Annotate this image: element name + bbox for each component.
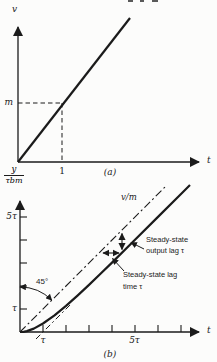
figure-strokes	[0, 0, 217, 362]
output-lag-annotation-line2: output lag τ	[146, 245, 184, 256]
lag-time-annotation-line2: time τ	[123, 281, 142, 292]
panel-b-input-line-label: v/m	[121, 193, 137, 202]
panel-b-y-axis-label-numerator: y	[3, 164, 25, 175]
panel-a-tick-1-label: 1	[57, 166, 67, 176]
panel-b-xtick-5tau-label: 5τ	[127, 335, 142, 345]
panel-b-angle-arc	[20, 287, 52, 300]
panel-b-y-axis-label-denominator: τbm	[3, 176, 25, 186]
panel-b-ytick-tau-label: τ	[6, 303, 17, 313]
textbook-figure: v t m 1 (a) y τbm 5τ τ τ 5τ t v/m 45° St…	[0, 0, 217, 362]
panel-b-x-axis-label: t	[207, 325, 211, 335]
panel-b-output-lag-pointer	[131, 243, 144, 250]
panel-b-angle-label: 45°	[36, 276, 48, 287]
panel-b-y-axis-label: y τbm	[3, 164, 25, 186]
panel-b-input-line-dashdot	[20, 185, 167, 332]
panel-b-caption: (b)	[100, 349, 120, 359]
panel-b-y-ticks	[20, 217, 27, 309]
panel-b-x-ticks	[43, 325, 181, 332]
panel-b-response-curve	[20, 185, 190, 332]
lag-time-annotation-line1: Steady-state lag	[123, 269, 177, 280]
panel-a-y-axis-label: v	[12, 4, 17, 14]
panel-b-asymptote-dash	[36, 303, 72, 339]
panel-b-xtick-tau-label: τ	[38, 335, 48, 345]
panel-a-x-axis-label: t	[207, 155, 211, 165]
panel-a-m-label: m	[1, 97, 13, 107]
output-lag-annotation-line1: Steady-state	[146, 234, 188, 245]
panel-a-caption: (a)	[100, 167, 120, 177]
panel-a-ramp-line	[18, 18, 130, 162]
panel-b-ytick-5tau-label: 5τ	[2, 211, 17, 221]
